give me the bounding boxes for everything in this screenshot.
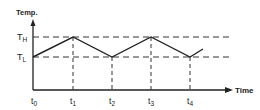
x-axis-arrow-icon bbox=[225, 87, 233, 93]
t4-label: t4 bbox=[187, 96, 193, 107]
temperature-time-diagram: Temp. Time TH TL t0 t1 t2 t3 t4 bbox=[0, 0, 260, 110]
t1-label: t1 bbox=[70, 96, 76, 107]
t-low-label: TL bbox=[17, 52, 27, 63]
t-high-label: TH bbox=[17, 32, 28, 43]
t3-label: t3 bbox=[148, 96, 154, 107]
temperature-waveform bbox=[33, 37, 203, 57]
y-axis-label: Temp. bbox=[16, 8, 38, 17]
t0-label: t0 bbox=[31, 96, 37, 107]
t2-label: t2 bbox=[109, 96, 115, 107]
x-axis-label: Time bbox=[235, 86, 254, 95]
y-axis-arrow-icon bbox=[31, 19, 36, 26]
